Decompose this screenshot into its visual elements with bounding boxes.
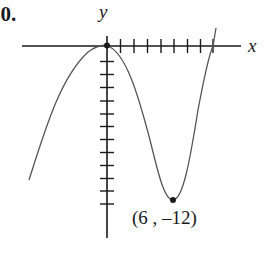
min-point-label: (6 , –12) — [132, 207, 197, 229]
function-curve — [29, 28, 216, 200]
origin-max-point — [104, 43, 110, 49]
local-min-point — [170, 197, 176, 203]
graph-figure: 10. y x — [0, 0, 264, 257]
